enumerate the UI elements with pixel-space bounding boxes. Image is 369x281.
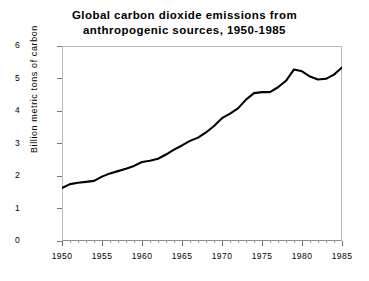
x-tick-minor	[94, 241, 95, 243]
x-tick-label: 1985	[322, 251, 362, 261]
x-tick-minor	[310, 241, 311, 243]
y-tick-label: 1	[6, 203, 20, 213]
x-tick-minor	[270, 241, 271, 243]
y-tick-label: 3	[6, 138, 20, 148]
data-line-svg	[62, 46, 342, 241]
x-tick-minor	[190, 241, 191, 243]
x-tick-label: 1970	[202, 251, 242, 261]
x-tick-major	[342, 241, 343, 246]
x-tick-minor	[158, 241, 159, 243]
y-tick-label: 6	[6, 40, 20, 50]
x-tick-label: 1980	[282, 251, 322, 261]
x-tick-major	[302, 241, 303, 246]
x-tick-minor	[166, 241, 167, 243]
co2-emissions-chart: Global carbon dioxide emissions from ant…	[0, 0, 369, 281]
x-tick-minor	[198, 241, 199, 243]
x-tick-minor	[118, 241, 119, 243]
x-tick-major	[102, 241, 103, 246]
x-tick-minor	[294, 241, 295, 243]
x-tick-minor	[174, 241, 175, 243]
x-tick-minor	[318, 241, 319, 243]
x-tick-minor	[110, 241, 111, 243]
x-tick-minor	[78, 241, 79, 243]
co2-series-line	[62, 67, 342, 188]
chart-title-line-2: anthropogenic sources, 1950-1985	[0, 23, 369, 38]
x-tick-minor	[326, 241, 327, 243]
x-tick-minor	[238, 241, 239, 243]
x-tick-minor	[150, 241, 151, 243]
x-tick-major	[62, 241, 63, 246]
y-axis-label: Billion metric tons of carbon	[29, 0, 39, 184]
x-tick-major	[142, 241, 143, 246]
x-tick-label: 1950	[42, 251, 82, 261]
x-tick-minor	[230, 241, 231, 243]
x-tick-label: 1965	[162, 251, 202, 261]
x-tick-label: 1960	[122, 251, 162, 261]
x-tick-minor	[86, 241, 87, 243]
x-tick-minor	[334, 241, 335, 243]
x-tick-minor	[126, 241, 127, 243]
x-tick-major	[262, 241, 263, 246]
x-tick-label: 1955	[82, 251, 122, 261]
x-tick-label: 1975	[242, 251, 282, 261]
x-tick-minor	[214, 241, 215, 243]
x-tick-minor	[254, 241, 255, 243]
y-tick-label: 2	[6, 170, 20, 180]
y-tick-label: 0	[6, 235, 20, 245]
chart-title-line-1: Global carbon dioxide emissions from	[0, 8, 369, 23]
y-tick-label: 4	[6, 105, 20, 115]
x-tick-minor	[278, 241, 279, 243]
x-tick-minor	[246, 241, 247, 243]
x-tick-minor	[206, 241, 207, 243]
x-tick-minor	[286, 241, 287, 243]
y-tick-label: 5	[6, 73, 20, 83]
x-tick-major	[182, 241, 183, 246]
x-tick-major	[222, 241, 223, 246]
chart-title: Global carbon dioxide emissions from ant…	[0, 8, 369, 38]
x-tick-minor	[134, 241, 135, 243]
x-tick-minor	[70, 241, 71, 243]
